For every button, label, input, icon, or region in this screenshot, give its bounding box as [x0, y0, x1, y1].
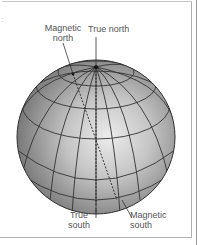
globe: [17, 58, 175, 214]
globe-diagram: :: [0, 0, 198, 245]
magnetic-north-label-line1: Magnetic: [40, 23, 86, 33]
true-north-label: True north: [88, 24, 129, 34]
magnetic-north-label-line2: north: [40, 33, 86, 43]
magnetic-south-label: Magnetic south: [130, 210, 178, 230]
magnetic-south-label-line2: south: [130, 220, 178, 230]
magnetic-north-label: Magnetic north: [40, 23, 86, 43]
diagram-frame: : Magnetic north True north True south M…: [0, 0, 198, 245]
true-south-label: True south: [64, 210, 94, 230]
magnetic-south-label-line1: Magnetic: [130, 210, 178, 220]
svg-text::: :: [1, 15, 3, 24]
true-south-label-line1: True: [64, 210, 94, 220]
true-south-label-line2: south: [64, 220, 94, 230]
